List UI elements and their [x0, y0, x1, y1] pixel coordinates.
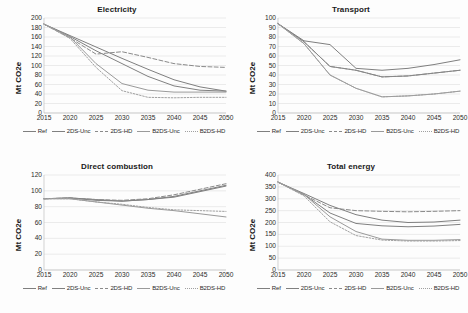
legend-label: B2DS-Unc [386, 285, 414, 291]
x-tick-label: 2030 [349, 272, 364, 279]
plot-area [44, 18, 226, 113]
chart-title: Total energy [234, 162, 468, 171]
legend-item-b2ds-hd[interactable]: B2DS-HD [419, 285, 460, 291]
x-tick-label: 2035 [141, 272, 156, 279]
plot-area [44, 175, 226, 270]
y-tick-label: 40 [269, 72, 276, 79]
legend-item-b2ds-unc[interactable]: B2DS-Unc [137, 285, 180, 291]
legend-item-b2ds-unc[interactable]: B2DS-Unc [371, 128, 414, 134]
chart-legend: Ref2DS-Unc2DS-HDB2DS-UncB2DS-HD [18, 285, 230, 291]
x-tick-label: 2045 [193, 115, 208, 122]
legend-swatch-icon [52, 286, 65, 291]
y-tick-label: 20 [269, 91, 276, 98]
legend-item-2ds-hd[interactable]: 2DS-HD [95, 285, 132, 291]
chart-title: Electricity [0, 5, 234, 14]
y-tick-label: 100 [265, 15, 276, 22]
y-tick-label: 120 [31, 53, 42, 60]
y-tick-label: 250 [265, 207, 276, 214]
y-tick-label: 10 [269, 100, 276, 107]
legend-item-b2ds-hd[interactable]: B2DS-HD [185, 128, 226, 134]
legend-label: B2DS-HD [434, 285, 460, 291]
y-tick-label: 30 [269, 81, 276, 88]
chart-panel-transport: Transport Mt CO2e 0102030405060708090100… [234, 0, 468, 156]
y-axis-ticks: 050100150200250300350400 [250, 175, 276, 270]
legend-label: 2DS-Unc [67, 128, 91, 134]
x-axis-ticks: 20152020202520302035204020452050 [44, 115, 226, 127]
y-axis-ticks: 020406080100120 [16, 175, 42, 270]
x-tick-label: 2020 [297, 272, 312, 279]
series-line-2ds-hd [278, 182, 460, 212]
legend-label: Ref [272, 128, 281, 134]
legend-item-2ds-unc[interactable]: 2DS-Unc [52, 285, 91, 291]
plot-svg [44, 18, 226, 113]
y-tick-label: 20 [35, 100, 42, 107]
legend-label: Ref [38, 285, 47, 291]
legend-label: 2DS-Unc [67, 285, 91, 291]
y-tick-label: 20 [35, 251, 42, 258]
legend-item-b2ds-unc[interactable]: B2DS-Unc [137, 128, 180, 134]
legend-label: B2DS-HD [200, 128, 226, 134]
legend-swatch-icon [257, 129, 270, 134]
legend-label: 2DS-Unc [301, 128, 325, 134]
legend-item-ref[interactable]: Ref [257, 128, 281, 134]
chart-title: Direct combustion [0, 162, 234, 171]
series-line-ref [278, 182, 460, 222]
legend-swatch-icon [137, 129, 150, 134]
y-tick-label: 60 [35, 81, 42, 88]
x-tick-label: 2040 [167, 272, 182, 279]
x-tick-label: 2050 [453, 272, 468, 279]
x-tick-label: 2045 [427, 115, 442, 122]
legend-item-ref[interactable]: Ref [257, 285, 281, 291]
x-tick-label: 2040 [401, 272, 416, 279]
legend-item-2ds-unc[interactable]: 2DS-Unc [52, 128, 91, 134]
legend-swatch-icon [95, 286, 108, 291]
legend-swatch-icon [23, 286, 36, 291]
y-tick-label: 60 [35, 219, 42, 226]
x-tick-label: 2045 [193, 272, 208, 279]
legend-label: 2DS-HD [344, 285, 366, 291]
x-tick-label: 2030 [115, 272, 130, 279]
legend-item-2ds-unc[interactable]: 2DS-Unc [286, 285, 325, 291]
legend-item-2ds-hd[interactable]: 2DS-HD [95, 128, 132, 134]
legend-swatch-icon [329, 286, 342, 291]
x-tick-label: 2035 [375, 272, 390, 279]
y-tick-label: 300 [265, 195, 276, 202]
x-tick-label: 2035 [141, 115, 156, 122]
x-tick-label: 2020 [63, 115, 78, 122]
y-tick-label: 80 [269, 34, 276, 41]
plot-area [278, 175, 460, 270]
y-tick-label: 180 [31, 24, 42, 31]
series-line-ref [278, 24, 460, 71]
series-line-2ds-unc [44, 24, 226, 91]
chart-legend: Ref2DS-Unc2DS-HDB2DS-UncB2DS-HD [18, 128, 230, 134]
y-tick-label: 80 [35, 72, 42, 79]
series-line-b2ds-unc [278, 24, 460, 97]
legend-item-ref[interactable]: Ref [23, 285, 47, 291]
legend-label: 2DS-HD [110, 128, 132, 134]
legend-item-b2ds-hd[interactable]: B2DS-HD [419, 128, 460, 134]
chart-legend: Ref2DS-Unc2DS-HDB2DS-UncB2DS-HD [252, 285, 464, 291]
legend-item-2ds-hd[interactable]: 2DS-HD [329, 128, 366, 134]
legend-swatch-icon [257, 286, 270, 291]
series-line-b2ds-hd [278, 24, 460, 97]
series-line-2ds-unc [278, 182, 460, 227]
legend-swatch-icon [185, 286, 198, 291]
legend-swatch-icon [419, 286, 432, 291]
series-line-2ds-hd [44, 24, 226, 67]
legend-swatch-icon [371, 129, 384, 134]
legend-label: B2DS-Unc [152, 285, 180, 291]
legend-item-2ds-unc[interactable]: 2DS-Unc [286, 128, 325, 134]
x-tick-label: 2015 [37, 272, 52, 279]
plot-area [278, 18, 460, 113]
y-tick-label: 350 [265, 184, 276, 191]
legend-label: 2DS-HD [344, 128, 366, 134]
legend-item-ref[interactable]: Ref [23, 128, 47, 134]
plot-svg [278, 18, 460, 113]
y-tick-label: 40 [35, 235, 42, 242]
legend-item-b2ds-unc[interactable]: B2DS-Unc [371, 285, 414, 291]
x-tick-label: 2030 [349, 115, 364, 122]
y-tick-label: 100 [265, 243, 276, 250]
legend-item-b2ds-hd[interactable]: B2DS-HD [185, 285, 226, 291]
legend-item-2ds-hd[interactable]: 2DS-HD [329, 285, 366, 291]
x-tick-label: 2025 [89, 115, 104, 122]
